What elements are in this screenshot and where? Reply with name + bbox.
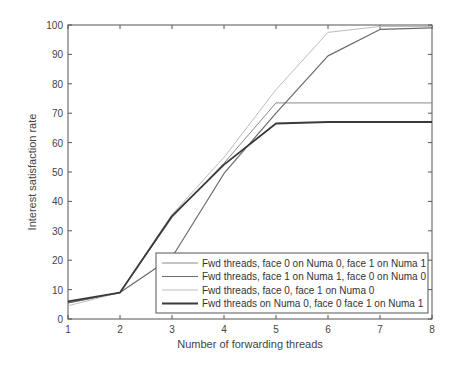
y-tick-label: 30 [52, 226, 64, 237]
y-tick-label: 60 [52, 138, 64, 149]
x-axis-label: Number of forwarding threads [177, 338, 323, 350]
y-axis-label: Interest satisfaction rate [26, 114, 38, 231]
y-tick-label: 0 [57, 314, 63, 325]
legend-entry: Fwd threads, face 0, face 1 on Numa 0 [202, 285, 375, 296]
y-tick-label: 100 [46, 20, 63, 31]
y-tick-label: 90 [52, 49, 64, 60]
legend: Fwd threads, face 0 on Numa 0, face 1 on… [156, 253, 428, 313]
x-tick-label: 5 [273, 324, 279, 335]
y-tick-label: 70 [52, 108, 64, 119]
y-tick-label: 80 [52, 79, 64, 90]
x-tick-label: 8 [429, 324, 435, 335]
x-tick-label: 7 [377, 324, 383, 335]
y-tick-label: 50 [52, 167, 64, 178]
x-tick-label: 6 [325, 324, 331, 335]
y-tick-label: 20 [52, 255, 64, 266]
y-tick-label: 40 [52, 196, 64, 207]
x-tick-label: 3 [169, 324, 175, 335]
y-tick-label: 10 [52, 285, 64, 296]
x-tick-label: 4 [221, 324, 227, 335]
x-tick-label: 2 [117, 324, 123, 335]
line-chart: 0102030405060708090100 12345678 Number o… [0, 0, 460, 368]
legend-entry: Fwd threads on Numa 0, face 0 face 1 on … [202, 298, 424, 309]
x-tick-label: 1 [65, 324, 71, 335]
legend-entry: Fwd threads, face 1 on Numa 1, face 0 on… [202, 271, 426, 282]
legend-entry: Fwd threads, face 0 on Numa 0, face 1 on… [202, 258, 426, 269]
